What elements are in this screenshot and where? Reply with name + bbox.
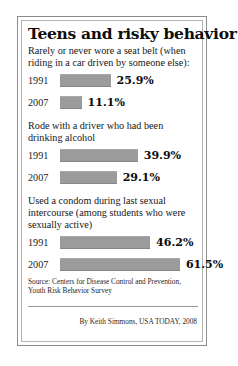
bar-row: 1991 25.9% bbox=[28, 72, 198, 89]
chart-group: Rarely or never wore a seat belt (when r… bbox=[28, 45, 198, 111]
group-label: Rode with a driver who had been drinking… bbox=[28, 120, 198, 143]
source-note: Source: Centers for Disease Control and … bbox=[28, 278, 198, 298]
bar-year-label: 1991 bbox=[28, 234, 60, 251]
chart-group: Used a condom during last sexual interco… bbox=[28, 195, 198, 273]
bar-value-label: 11.1% bbox=[88, 94, 125, 111]
infographic-content: Teens and risky behavior Rarely or never… bbox=[28, 25, 198, 341]
bar-year-label: 1991 bbox=[28, 147, 60, 164]
bar-track bbox=[60, 74, 111, 87]
group-label: Used a condom during last sexual interco… bbox=[28, 195, 198, 230]
bar-value-label: 25.9% bbox=[117, 72, 154, 89]
bar-year-label: 1991 bbox=[28, 72, 60, 89]
bar-value-label: 46.2% bbox=[156, 234, 193, 251]
bar-year-label: 2007 bbox=[28, 94, 60, 111]
bar-year-label: 2007 bbox=[28, 256, 60, 273]
bar-track bbox=[60, 96, 82, 109]
bar-fill bbox=[60, 74, 111, 87]
bar-track bbox=[60, 258, 180, 271]
bar-track bbox=[60, 236, 150, 249]
chart-group: Rode with a driver who had been drinking… bbox=[28, 120, 198, 186]
bar-fill bbox=[60, 258, 180, 271]
bar-track bbox=[60, 149, 138, 162]
bar-track bbox=[60, 171, 117, 184]
byline-divider bbox=[28, 306, 198, 307]
infographic-card: Teens and risky behavior Rarely or never… bbox=[17, 16, 207, 346]
group-label: Rarely or never wore a seat belt (when r… bbox=[28, 45, 198, 68]
bar-row: 2007 11.1% bbox=[28, 94, 198, 111]
bar-fill bbox=[60, 96, 82, 109]
bar-value-label: 29.1% bbox=[123, 169, 160, 186]
bar-fill bbox=[60, 149, 138, 162]
bar-row: 2007 61.5% bbox=[28, 256, 198, 273]
bar-fill bbox=[60, 236, 150, 249]
bar-row: 2007 29.1% bbox=[28, 169, 198, 186]
page-title: Teens and risky behavior bbox=[28, 25, 198, 42]
bar-row: 1991 39.9% bbox=[28, 147, 198, 164]
bar-fill bbox=[60, 171, 117, 184]
bar-value-label: 39.9% bbox=[144, 147, 181, 164]
bar-year-label: 2007 bbox=[28, 169, 60, 186]
byline: By Keith Simmons, USA TODAY, 2008 bbox=[28, 314, 198, 326]
bar-row: 1991 46.2% bbox=[28, 234, 198, 251]
bar-value-label: 61.5% bbox=[186, 256, 223, 273]
